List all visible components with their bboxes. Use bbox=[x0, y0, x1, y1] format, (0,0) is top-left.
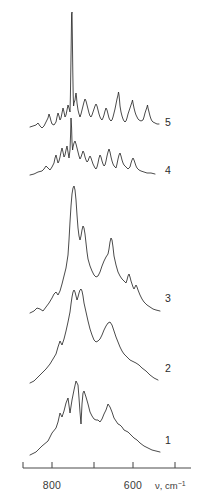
spectra-plot-canvas: 1 2 3 4 5 800 600 ν, cm−1 bbox=[0, 0, 202, 499]
curve-label-2: 2 bbox=[165, 362, 171, 374]
x-axis-ticklabel-600: 600 bbox=[124, 479, 142, 491]
curve-label-5: 5 bbox=[165, 116, 171, 128]
x-axis-title-base: ν, cm bbox=[155, 480, 178, 491]
spectra-figure: 1 2 3 4 5 800 600 ν, cm−1 bbox=[0, 0, 202, 499]
curve-label-3: 3 bbox=[165, 292, 171, 304]
x-axis-ticklabel-800: 800 bbox=[43, 479, 61, 491]
x-axis-title-exponent: −1 bbox=[178, 480, 186, 487]
plot-background bbox=[0, 0, 202, 499]
curve-label-1: 1 bbox=[165, 434, 171, 446]
curve-label-4: 4 bbox=[165, 164, 171, 176]
